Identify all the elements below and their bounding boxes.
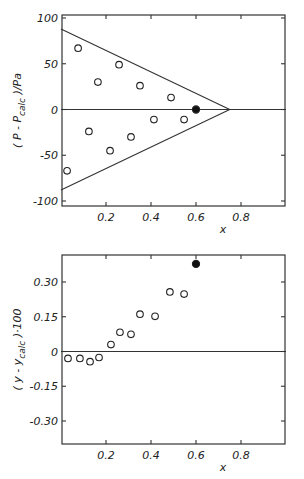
- open-data-point: [108, 341, 115, 348]
- open-data-point: [116, 61, 123, 68]
- vapor-composition-residual-chart: 0.20.40.60.80.300.150-0.15-0.30x( y - yc…: [11, 255, 286, 474]
- y-tick-label: -50: [40, 149, 58, 162]
- open-data-point: [77, 355, 84, 362]
- upper-bound: [61, 29, 230, 110]
- x-tick-label: 0.4: [142, 449, 160, 462]
- x-axis-title: x: [219, 223, 227, 236]
- y-tick-label: 100: [37, 12, 58, 25]
- open-data-point: [86, 128, 93, 135]
- pressure-residual-chart: 0.20.40.60.8100500-50-100x( P - Pcalc )/…: [11, 12, 286, 236]
- open-data-point: [137, 311, 144, 318]
- x-tick-label: 0.6: [187, 211, 205, 224]
- open-data-point: [75, 45, 82, 52]
- open-data-point: [128, 134, 135, 141]
- x-tick-label: 0.2: [97, 449, 115, 462]
- figure: 0.20.40.60.8100500-50-100x( P - Pcalc )/…: [0, 0, 304, 479]
- y-tick-label: -0.30: [30, 415, 58, 428]
- x-tick-label: 0.2: [97, 211, 115, 224]
- open-data-point: [151, 116, 158, 123]
- y-tick-label: 0: [51, 104, 58, 117]
- open-data-point: [168, 94, 175, 101]
- y-axis-title: ( y - ycalc )·100: [11, 309, 27, 391]
- open-data-point: [167, 289, 174, 296]
- plot-frame: [62, 15, 285, 206]
- open-data-point: [64, 168, 71, 175]
- y-tick-label: -100: [33, 195, 58, 208]
- open-data-point: [96, 354, 103, 361]
- y-tick-label: 50: [44, 58, 58, 71]
- open-data-point: [87, 358, 94, 365]
- lower-bound: [61, 110, 230, 191]
- x-tick-label: 0.8: [232, 449, 250, 462]
- open-data-point: [181, 116, 188, 123]
- filled-data-point: [192, 106, 199, 113]
- filled-data-point: [192, 260, 199, 267]
- open-data-point: [107, 147, 114, 154]
- open-data-point: [128, 331, 135, 338]
- y-tick-label: -0.15: [30, 380, 58, 393]
- plot-frame: [62, 255, 285, 444]
- open-data-point: [152, 313, 159, 320]
- open-data-point: [117, 329, 124, 336]
- open-data-point: [65, 355, 72, 362]
- open-data-point: [137, 82, 144, 89]
- y-tick-label: 0.30: [34, 276, 59, 289]
- x-tick-label: 0.6: [187, 449, 205, 462]
- open-data-point: [95, 79, 102, 86]
- y-tick-label: 0: [51, 346, 58, 359]
- x-tick-label: 0.8: [232, 211, 250, 224]
- x-axis-title: x: [219, 461, 227, 474]
- open-data-point: [181, 291, 188, 298]
- y-axis-title: ( P - Pcalc )/Pa: [11, 73, 27, 148]
- x-tick-label: 0.4: [142, 211, 160, 224]
- y-tick-label: 0.15: [34, 311, 59, 324]
